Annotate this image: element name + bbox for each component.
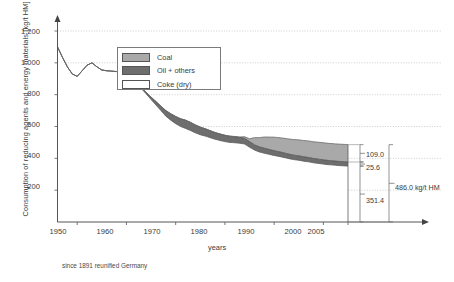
annotation-total-value: 486.0 kg/t HM	[395, 183, 440, 192]
legend-item-coal: Coal	[122, 51, 216, 63]
annotation-coal-value: 109.0	[366, 150, 384, 159]
legend-swatch-coal	[122, 53, 150, 62]
legend-swatch-coke	[122, 80, 150, 89]
annotation-oil-value: 25.6	[366, 163, 380, 172]
chart-legend: Coal Oil + others Coke (dry)	[117, 47, 221, 90]
legend-item-oil: Oil + others	[122, 65, 216, 77]
legend-label-coke: Coke (dry)	[157, 80, 192, 89]
legend-item-coke: Coke (dry)	[122, 78, 216, 90]
legend-swatch-oil	[122, 66, 150, 75]
plot-area	[0, 0, 454, 282]
legend-label-coal: Coal	[157, 53, 172, 62]
chart-container: Consumption of reducing agents and energ…	[0, 0, 454, 282]
annotation-coke-value: 351.4	[366, 196, 384, 205]
legend-label-oil: Oil + others	[157, 66, 195, 75]
